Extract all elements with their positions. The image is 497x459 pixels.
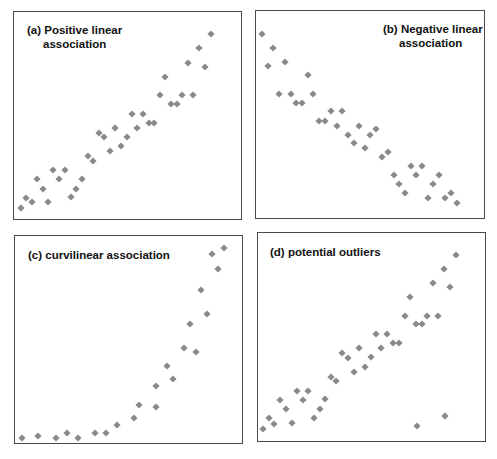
data-point-diamond (133, 124, 140, 131)
data-point-diamond (304, 71, 311, 78)
data-point-diamond (180, 344, 187, 351)
data-point-diamond (169, 375, 176, 382)
data-point-diamond (102, 429, 109, 436)
data-point-diamond (117, 142, 124, 149)
data-point-diamond (441, 194, 448, 201)
data-point-diamond (321, 117, 328, 124)
data-point-diamond (299, 396, 306, 403)
data-point-diamond (74, 434, 81, 441)
data-point-diamond (338, 107, 345, 114)
data-point-diamond (384, 148, 391, 155)
data-point-diamond (333, 122, 340, 129)
data-point-diamond (152, 382, 159, 389)
data-point-diamond (163, 362, 170, 369)
data-point-diamond (446, 283, 453, 290)
data-point-diamond (321, 395, 328, 402)
data-point-diamond (327, 107, 334, 114)
data-point-diamond (429, 180, 436, 187)
data-point-diamond (52, 434, 59, 441)
data-point-diamond (383, 330, 390, 337)
data-point-diamond (275, 90, 282, 97)
data-point-diamond (91, 429, 98, 436)
data-point-diamond (128, 110, 135, 117)
data-point-diamond (258, 30, 265, 37)
data-point-diamond (201, 63, 208, 70)
data-point-diamond (208, 250, 215, 257)
data-point-diamond (350, 368, 357, 375)
data-point-diamond (350, 139, 357, 146)
data-point-diamond (150, 119, 157, 126)
data-point-diamond (372, 330, 379, 337)
data-point-diamond (78, 175, 85, 182)
data-point-diamond (259, 425, 266, 432)
data-point-diamond (173, 100, 180, 107)
data-point-diamond (189, 91, 196, 98)
data-point-diamond (418, 320, 425, 327)
data-point-diamond (28, 198, 35, 205)
data-point-diamond (406, 293, 413, 300)
data-point-diamond (39, 185, 46, 192)
data-point-diamond (377, 344, 384, 351)
data-point-diamond (298, 99, 305, 106)
data-point-diamond (265, 414, 272, 421)
data-point-diamond (22, 194, 29, 201)
data-point-diamond (435, 171, 442, 178)
data-point-diamond (156, 91, 163, 98)
data-point-diamond (361, 144, 368, 151)
data-point-diamond (429, 279, 436, 286)
data-point-diamond (139, 110, 146, 117)
data-point-diamond (184, 59, 191, 66)
scatter-points-layer (0, 0, 497, 459)
data-point-diamond (34, 432, 41, 439)
data-point-diamond (310, 414, 317, 421)
data-point-diamond (344, 354, 351, 361)
data-point-diamond (33, 175, 40, 182)
data-point-diamond (220, 244, 227, 251)
data-point-diamond (276, 396, 283, 403)
data-point-diamond (130, 414, 137, 421)
data-point-diamond (123, 133, 130, 140)
data-point-diamond (270, 420, 277, 427)
data-point-diamond (214, 265, 221, 272)
data-point-diamond (84, 152, 91, 159)
data-point-diamond (361, 363, 368, 370)
data-point-diamond (440, 265, 447, 272)
data-point-diamond (395, 339, 402, 346)
data-point-diamond (423, 312, 430, 319)
data-point-diamond (161, 73, 168, 80)
data-point-diamond (178, 91, 185, 98)
data-point-diamond (269, 44, 276, 51)
data-point-diamond (332, 377, 339, 384)
data-point-diamond (72, 185, 79, 192)
data-point-diamond (304, 387, 311, 394)
data-point-diamond (309, 90, 316, 97)
data-point-diamond (418, 162, 425, 169)
data-point-diamond (355, 344, 362, 351)
data-point-diamond (106, 147, 113, 154)
data-point-diamond (287, 90, 294, 97)
data-point-diamond (203, 310, 210, 317)
data-point-diamond (366, 131, 373, 138)
data-point-diamond (100, 133, 107, 140)
data-point-diamond (453, 199, 460, 206)
data-point-diamond (89, 157, 96, 164)
data-point-diamond (412, 171, 419, 178)
data-point-diamond (192, 348, 199, 355)
data-point-diamond (316, 405, 323, 412)
data-point-diamond (55, 175, 62, 182)
data-point-diamond (452, 251, 459, 258)
data-point-diamond (281, 58, 288, 65)
data-point-diamond (390, 171, 397, 178)
data-point-diamond (18, 434, 25, 441)
data-point-diamond (434, 312, 441, 319)
data-point-diamond (95, 129, 102, 136)
data-point-diamond (61, 166, 68, 173)
data-point-diamond (378, 153, 385, 160)
data-point-diamond (367, 353, 374, 360)
data-point-diamond (424, 194, 431, 201)
data-point-diamond (264, 62, 271, 69)
data-point-diamond (63, 429, 70, 436)
data-point-diamond (355, 122, 362, 129)
data-point-diamond (195, 44, 202, 51)
data-point-diamond (395, 180, 402, 187)
